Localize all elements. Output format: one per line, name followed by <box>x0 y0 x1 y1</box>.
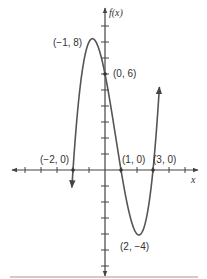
y-axis-label: f(x) <box>109 7 124 19</box>
root-point-right <box>151 168 155 172</box>
cubic-function-graph: x f(x) (−1, 8) (0, 6) (−2, 0) (1, 0) (3,… <box>0 0 207 279</box>
root-left-label: (−2, 0) <box>40 154 69 165</box>
min-point-label: (2, −4) <box>120 241 149 252</box>
y-intercept-label: (0, 6) <box>113 68 136 79</box>
y-axis: f(x) <box>101 7 124 276</box>
max-point-label: (−1, 8) <box>53 37 82 48</box>
root-point-left <box>71 168 75 172</box>
root-mid-label: (1, 0) <box>122 154 145 165</box>
root-point-mid <box>119 168 123 172</box>
y-intercept-point <box>103 72 107 76</box>
root-right-label: (3, 0) <box>153 154 176 165</box>
x-axis-label: x <box>190 174 196 185</box>
